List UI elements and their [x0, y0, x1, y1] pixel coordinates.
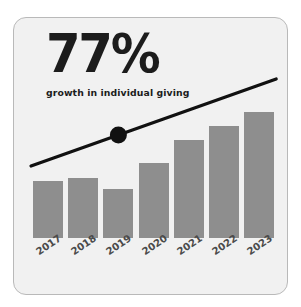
- x-tick-label-2021: 2021: [175, 232, 204, 257]
- x-tick-label-2017: 2017: [34, 232, 63, 257]
- infographic-card: 77% growth in individual giving 20172018…: [13, 17, 288, 295]
- x-tick-label-2022: 2022: [210, 232, 239, 257]
- x-tick-label-2020: 2020: [140, 232, 169, 257]
- bar-chart: 2017201820192020202120222023: [14, 18, 288, 295]
- x-axis: 2017201820192020202120222023: [14, 18, 288, 295]
- x-tick-label-2018: 2018: [69, 232, 98, 257]
- x-tick-label-2019: 2019: [104, 232, 133, 257]
- x-tick-label-2023: 2023: [245, 232, 274, 257]
